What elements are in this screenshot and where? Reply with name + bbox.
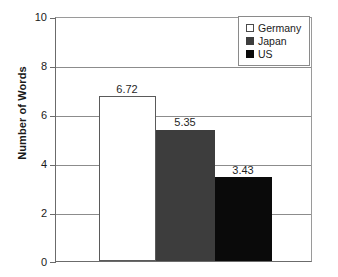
tickmark-4 [50, 165, 56, 166]
y-tick-label-6: 6 [7, 109, 47, 121]
value-label-germany: 6.72 [116, 83, 137, 95]
y-tick-label-10: 10 [7, 11, 47, 23]
legend-item-germany[interactable]: Germany [246, 22, 303, 34]
legend-label-germany: Germany [258, 23, 301, 34]
tickmark-2 [50, 214, 56, 215]
y-tick-label-0: 0 [7, 256, 47, 268]
bar-germany[interactable] [99, 96, 156, 261]
legend-swatch-japan-icon [246, 37, 254, 45]
legend-swatch-germany-icon [246, 24, 254, 32]
value-label-us: 3.43 [232, 164, 253, 176]
y-tick-label-8: 8 [7, 60, 47, 72]
y-tick-label-4: 4 [7, 158, 47, 170]
bar-japan[interactable] [156, 130, 215, 261]
bar-chart: Number of Words 10 8 6 4 2 0 6.72 5.35 3… [0, 0, 338, 277]
y-tick-label-2: 2 [7, 207, 47, 219]
tickmark-0 [50, 262, 56, 263]
legend: Germany Japan US [238, 16, 310, 66]
value-label-japan: 5.35 [174, 116, 195, 128]
tickmark-8 [50, 67, 56, 68]
legend-label-us: US [258, 49, 273, 60]
legend-swatch-us-icon [246, 50, 254, 58]
legend-item-us[interactable]: US [246, 48, 303, 60]
legend-label-japan: Japan [258, 36, 287, 47]
tickmark-10 [50, 18, 56, 19]
tickmark-6 [50, 116, 56, 117]
bar-us[interactable] [215, 177, 272, 261]
legend-item-japan[interactable]: Japan [246, 35, 303, 47]
gridline-8 [56, 67, 311, 68]
